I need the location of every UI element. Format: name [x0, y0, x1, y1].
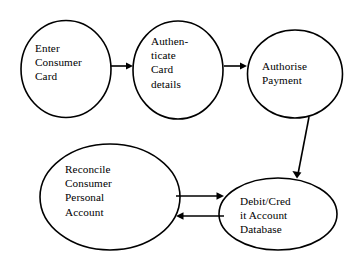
node-label-enter-consumer-card: Enter Consumer Card	[35, 41, 82, 84]
node-label-debit-credit-account-database: Debit/Cred it Account Database	[240, 194, 291, 237]
edge-reconcile-to-database-arrow	[176, 192, 224, 200]
edge-database-to-reconcile-arrow	[176, 212, 224, 220]
edge-authenticate-to-authorise-arrow	[224, 62, 247, 69]
node-label-authorise-payment: Authorise Payment	[262, 59, 307, 87]
edge-enter-to-authenticate-arrow	[111, 62, 133, 69]
edge-authorise-to-database-arrow	[292, 117, 309, 179]
node-label-authenticate-card-details: Authen- ticate Card details	[151, 34, 188, 91]
node-label-reconcile-consumer-personal-account: Reconcile Consumer Personal Account	[65, 162, 112, 219]
